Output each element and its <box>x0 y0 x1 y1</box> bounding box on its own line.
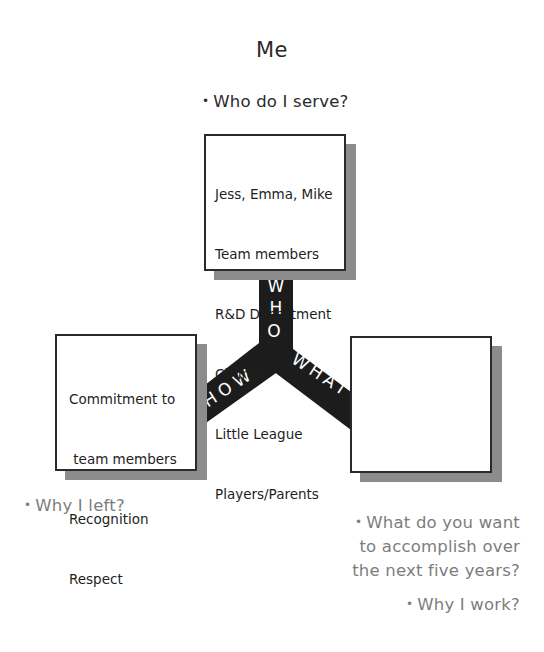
who-item: Little League <box>215 424 333 444</box>
bullet-icon: • <box>406 597 413 611</box>
who-item: Team members <box>215 244 333 264</box>
how-item: Respect <box>69 569 177 589</box>
bullet-icon: • <box>355 515 362 529</box>
question-accomplish: •What do you want to accomplish over the… <box>352 510 520 583</box>
how-item: team members <box>69 449 177 469</box>
who-item: Jess, Emma, Mike <box>215 184 333 204</box>
who-item: R&D Department <box>215 304 333 324</box>
what-box <box>350 336 492 473</box>
how-item: Commitment to <box>69 389 177 409</box>
question-why-i-work: •Why I work? <box>406 595 520 614</box>
bullet-icon: • <box>24 498 31 512</box>
who-box: Jess, Emma, Mike Team members R&D Depart… <box>204 134 346 271</box>
how-box: Commitment to team members Recognition R… <box>55 334 197 471</box>
how-list: Commitment to team members Recognition R… <box>69 349 177 629</box>
question-why-i-left: •Why I left? <box>24 496 125 515</box>
who-list: Jess, Emma, Mike Team members R&D Depart… <box>215 144 333 544</box>
who-item: Church <box>215 364 333 384</box>
who-item: Players/Parents <box>215 484 333 504</box>
